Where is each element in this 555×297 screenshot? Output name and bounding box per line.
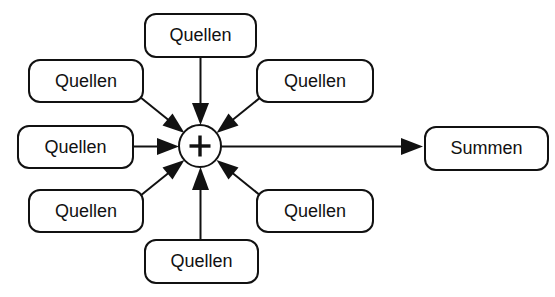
source-top[interactable]: Quellen [145, 14, 256, 57]
center-node[interactable] [179, 125, 221, 167]
source-top-right-label: Quellen [284, 71, 346, 91]
output-summen[interactable]: Summen [425, 127, 548, 170]
edge-line [140, 171, 171, 196]
source-top-right[interactable]: Quellen [257, 60, 373, 102]
edge-line [230, 171, 261, 196]
source-top-left-label: Quellen [55, 71, 117, 91]
source-left[interactable]: Quellen [18, 126, 133, 168]
edge-bottom-right-to-sum [217, 160, 262, 196]
source-left-label: Quellen [44, 137, 106, 157]
edge-bottom-left-to-sum [140, 160, 185, 196]
edge-left-to-sum [133, 138, 179, 155]
edge-top-to-sum [192, 57, 209, 125]
source-bottom-label: Quellen [170, 251, 232, 271]
diagram-canvas: Quellen Quellen Quellen Quellen Quellen … [0, 0, 555, 297]
summation-diagram: Quellen Quellen Quellen Quellen Quellen … [0, 0, 555, 297]
arrow-head-up-right [163, 160, 185, 180]
arrow-head-right [157, 138, 179, 155]
edge-top-left-to-sum [140, 97, 185, 133]
arrow-head-right [401, 138, 423, 155]
edge-bottom-to-sum [192, 167, 209, 240]
edge-top-right-to-sum [217, 97, 262, 133]
source-bottom[interactable]: Quellen [145, 240, 258, 283]
edge-line [140, 97, 171, 122]
edge-sum-to-output [221, 138, 423, 155]
source-bottom-right-label: Quellen [284, 201, 346, 221]
source-bottom-left-label: Quellen [55, 201, 117, 221]
source-bottom-left[interactable]: Quellen [29, 190, 143, 232]
source-top-label: Quellen [169, 25, 231, 45]
arrow-head-up [192, 167, 209, 190]
arrow-head-down-right [163, 114, 185, 134]
source-top-left[interactable]: Quellen [29, 60, 143, 102]
edge-line [230, 97, 261, 122]
output-summen-label: Summen [450, 138, 522, 158]
arrow-head-down-left [217, 114, 239, 134]
source-bottom-right[interactable]: Quellen [257, 190, 373, 232]
arrow-head-up-left [217, 160, 239, 180]
arrow-head-down [192, 103, 209, 125]
